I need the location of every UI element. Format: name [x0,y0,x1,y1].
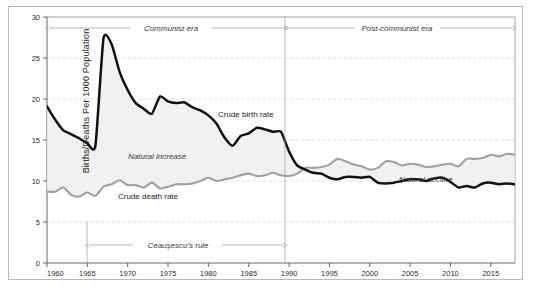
x-tick-label-2015: 2015 [482,269,499,278]
series-group [47,35,515,197]
x-tick-label-1970: 1970 [119,269,136,278]
y-tick-20: 20 [32,95,40,104]
x-axis: 1960196519701975198019851990199520002005… [47,263,515,278]
x-tick-label-1980: 1980 [200,269,217,278]
x-tick-label-1975: 1975 [160,269,177,278]
x-tick-label-2000: 2000 [361,269,378,278]
x-tick-label-2010: 2010 [442,269,459,278]
y-tick-10: 10 [32,177,40,186]
y-axis: 0 5 10 15 20 25 30 [32,13,47,268]
ceausescu-rule-label: Ceaușescu's rule [147,241,209,250]
figure-container: 0 5 10 15 20 25 30 196019651970197519801… [0,0,533,290]
y-tick-25: 25 [32,54,40,63]
x-tick-label-1965: 1965 [79,269,96,278]
ceausescu-rule-annotation: Ceaușescu's rule [89,241,283,250]
crude-birth-rate-label: Crude birth rate [218,110,274,119]
y-axis-title: Births/Deaths Per 1000 Population [81,11,91,191]
crude-death-rate-label: Crude death rate [118,192,179,201]
x-tick-marks: 1960196519701975198019851990199520002005… [47,263,499,278]
post-communist-era-label: Post-communist era [361,24,433,33]
natural-decline-label: Natural decline [399,175,453,184]
post-communist-era-annotation: Post-communist era [288,24,512,33]
x-tick-label-1990: 1990 [281,269,298,278]
y-tick-15: 15 [32,136,40,145]
chart-plot-area: 0 5 10 15 20 25 30 196019651970197519801… [0,0,533,290]
y-tick-30: 30 [32,13,40,22]
chart-svg: 0 5 10 15 20 25 30 196019651970197519801… [0,0,533,290]
y-tick-0: 0 [36,259,40,268]
communist-era-label: Communist era [144,24,199,33]
x-tick-label-1985: 1985 [240,269,257,278]
x-tick-label-1960: 1960 [47,269,64,278]
x-tick-label-2005: 2005 [402,269,419,278]
x-tick-label-1995: 1995 [321,269,338,278]
y-tick-5: 5 [36,218,40,227]
natural-increase-label: Natural increase [128,152,187,161]
